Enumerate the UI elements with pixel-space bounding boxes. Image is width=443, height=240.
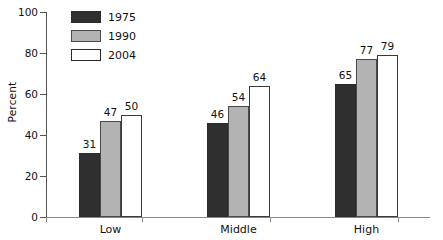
y-tick-label: 60 — [10, 88, 38, 100]
dark-swatch-icon — [71, 11, 101, 23]
legend-label: 1975 — [108, 11, 136, 24]
bar-value-label: 79 — [381, 40, 394, 52]
bar-value-label: 46 — [211, 108, 224, 120]
bar-value-label: 31 — [83, 138, 96, 150]
y-tick — [40, 176, 46, 177]
bar-1975-middle — [207, 123, 228, 217]
y-tick — [40, 12, 46, 13]
y-tick-label: 100 — [10, 6, 38, 18]
legend-label: 2004 — [108, 49, 136, 62]
legend-item-1975: 1975 — [71, 9, 136, 25]
bar-value-label: 50 — [125, 100, 138, 112]
bar-1990-high — [356, 59, 377, 217]
bar-1975-high — [335, 84, 356, 217]
y-tick — [40, 94, 46, 95]
x-separator-tick — [46, 217, 47, 222]
x-separator-tick — [398, 217, 399, 222]
y-axis-spine — [46, 12, 47, 217]
bar-value-label: 65 — [339, 69, 352, 81]
bar-value-label: 77 — [360, 44, 373, 56]
bar-value-label: 54 — [232, 91, 245, 103]
bar-1990-low — [100, 121, 121, 217]
legend-item-2004: 2004 — [71, 47, 136, 63]
gray-swatch-icon — [71, 30, 101, 42]
white-swatch-icon — [71, 49, 101, 61]
category-label-low: Low — [100, 223, 122, 236]
bar-chart: Percent 020406080100 314750465464657779 … — [0, 0, 443, 240]
bar-1990-middle — [228, 106, 249, 217]
y-tick — [40, 135, 46, 136]
legend-label: 1990 — [108, 30, 136, 43]
legend-item-1990: 1990 — [71, 28, 136, 44]
bar-2004-middle — [249, 86, 270, 217]
x-axis-spine — [46, 217, 430, 218]
x-separator-tick — [142, 217, 143, 222]
category-label-middle: Middle — [220, 223, 256, 236]
y-tick — [40, 53, 46, 54]
legend: 1975 1990 2004 — [71, 9, 136, 66]
bar-value-label: 47 — [104, 106, 117, 118]
y-tick-label: 20 — [10, 170, 38, 182]
bar-value-label: 64 — [253, 71, 266, 83]
y-tick-label: 0 — [10, 211, 38, 223]
y-axis-label: Percent — [6, 72, 18, 132]
y-tick-label: 40 — [10, 129, 38, 141]
x-separator-tick — [270, 217, 271, 222]
y-tick-label: 80 — [10, 47, 38, 59]
bar-2004-high — [377, 55, 398, 217]
bar-1975-low — [79, 153, 100, 217]
bar-2004-low — [121, 115, 142, 218]
category-label-high: High — [354, 223, 379, 236]
